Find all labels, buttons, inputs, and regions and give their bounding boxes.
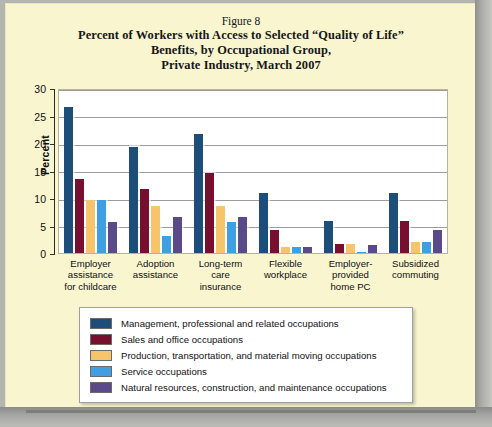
bar: [335, 242, 346, 253]
bar-highlight-top: [162, 234, 173, 236]
bar: [238, 215, 249, 254]
bar-highlight-top: [292, 245, 303, 247]
bar-chart: Percent 051015202530 Employerassistancef…: [6, 4, 476, 408]
bar-face: [368, 245, 377, 253]
bar-face: [389, 193, 398, 253]
bar: [292, 245, 303, 253]
legend-swatch-2: [90, 334, 112, 345]
legend-swatch-3: [90, 350, 112, 361]
y-tick-label-10: 10: [20, 193, 46, 205]
bar-highlight-right: [312, 247, 314, 253]
bar-face: [140, 189, 149, 253]
y-tick-label-0: 0: [20, 248, 46, 260]
bar-highlight-top: [368, 243, 379, 245]
bar-face: [238, 217, 247, 254]
bar: [411, 240, 422, 253]
y-tick-label-15: 15: [20, 166, 46, 178]
y-tick-mark-30: [50, 89, 54, 90]
legend-label-3: Production, transportation, and material…: [121, 350, 376, 361]
bar-highlight-top: [346, 242, 357, 244]
bar: [227, 220, 238, 253]
y-tick-label-30: 30: [20, 83, 46, 95]
bar: [75, 177, 86, 253]
bar-highlight-top: [216, 204, 227, 206]
bar: [422, 240, 433, 253]
bar: [64, 105, 75, 254]
bar-face: [303, 247, 312, 253]
bar-highlight-top: [389, 191, 400, 193]
bar-face: [97, 200, 106, 253]
bar-highlight-top: [227, 220, 238, 222]
legend-item-3: Production, transportation, and material…: [90, 347, 404, 363]
y-tick-mark-5: [50, 227, 54, 228]
bar-highlight-right: [377, 245, 379, 253]
bar-face: [86, 200, 95, 253]
page-right-edge: [475, 0, 492, 410]
y-tick-mark-10: [50, 199, 54, 200]
plot-area: [58, 89, 448, 254]
bar-face: [433, 230, 442, 253]
bar: [270, 228, 281, 253]
bar: [303, 245, 314, 253]
gridline-30: [59, 90, 447, 91]
bar-highlight-top: [270, 228, 281, 230]
bar-face: [281, 247, 290, 253]
bar-face: [75, 179, 84, 253]
bar: [259, 191, 270, 253]
bar: [108, 220, 119, 253]
bar: [129, 145, 140, 253]
bar: [357, 250, 368, 253]
bar-highlight-top: [75, 177, 86, 179]
legend-label-5: Natural resources, construction, and mai…: [121, 382, 387, 393]
bar-highlight-top: [238, 215, 249, 217]
bar-highlight-top: [129, 145, 140, 147]
gridline-15: [59, 172, 447, 173]
bar: [162, 234, 173, 253]
bar-highlight-top: [64, 105, 75, 107]
bar-highlight-top: [335, 242, 346, 244]
legend-item-4: Service occupations: [90, 363, 404, 379]
bar: [346, 242, 357, 253]
bar-face: [259, 193, 268, 253]
bar: [368, 243, 379, 253]
gridline-25: [59, 117, 447, 118]
bar: [433, 228, 444, 253]
legend-item-2: Sales and office occupations: [90, 331, 404, 347]
bar-highlight-top: [97, 198, 108, 200]
bar-highlight-right: [247, 217, 249, 254]
y-tick-label-25: 25: [20, 111, 46, 123]
bar-highlight-top: [411, 240, 422, 242]
bar-highlight-right: [117, 222, 119, 253]
bar-highlight-top: [324, 219, 335, 221]
bar-face: [400, 221, 409, 253]
bar-highlight-right: [442, 230, 444, 253]
bar-face: [173, 217, 182, 254]
legend-item-5: Natural resources, construction, and mai…: [90, 379, 404, 395]
bar-face: [357, 252, 366, 253]
page-bottom-rule: [26, 410, 476, 413]
bar-highlight-top: [357, 250, 368, 252]
bar: [140, 187, 151, 253]
bar-face: [162, 236, 171, 253]
legend-swatch-5: [90, 382, 112, 393]
bar-face: [205, 173, 214, 254]
bar: [324, 219, 335, 253]
bar-face: [227, 222, 236, 253]
figure-panel: Figure 8 Percent of Workers with Access …: [5, 3, 475, 407]
bar-highlight-top: [86, 198, 97, 200]
y-axis-line: [54, 89, 55, 255]
plot-inner: [59, 90, 447, 253]
legend-label-1: Management, professional and related occ…: [121, 318, 339, 329]
x-axis-label-line: insurance: [182, 281, 259, 292]
y-tick-label-5: 5: [20, 221, 46, 233]
bar-highlight-right: [182, 217, 184, 254]
bar-highlight-top: [140, 187, 151, 189]
bar-highlight-top: [422, 240, 433, 242]
bar: [281, 245, 292, 253]
y-tick-mark-0: [50, 254, 54, 255]
figure-page: Figure 8 Percent of Workers with Access …: [0, 0, 492, 427]
bar-face: [194, 134, 203, 253]
bar: [400, 219, 411, 253]
bar-highlight-top: [303, 245, 314, 247]
y-tick-mark-20: [50, 144, 54, 145]
